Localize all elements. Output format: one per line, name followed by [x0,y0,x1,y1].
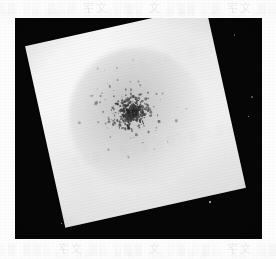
bleed-through-text-top-line-1: ░▒ 文字 ▒░ ▒▒░ 文 ░▒░ 文字 ▒░▒ ░░ ▒░▒ 文字░ ▒░ [0,0,276,15]
bleed-through-text-on-plate-lower: ░▒░ ▒░▒░ ▒░▒ ░▒░▒ [56,121,234,172]
tilted-white-plate: ▒░▒ ░▒░ ▒░ ░▒░ ▒░▒░ ▒░▒ ░▒░▒ [25,18,246,228]
bleed-through-text-left-margin: ░▒░ ▒░▒ ░▒ [0,100,9,182]
colony-speckle-cluster [42,23,230,211]
scanned-page: ░▒ 文字 ▒░ ▒▒░ 文 ░▒░ 文字 ▒░▒ ░░ ▒░▒ 文字░ ▒░ … [0,0,276,259]
photograph: ▒░▒ ░▒░ ▒░ ░▒░ ▒░▒░ ▒░▒ ░▒░▒ [15,18,262,239]
bleed-through-text-on-plate-upper: ▒░▒ ░▒░ ▒░ [39,41,217,91]
bleed-through-text-bottom-line-1: ▒░ 文字 ░▒░ ▒░ 文 ▒▒░ ░▒ 文字 ░▒▒ ▒░ ░▒░ [0,240,276,256]
plate-container: ▒░▒ ░▒░ ▒░ ░▒░ ▒░▒░ ▒░▒ ░▒░▒ [15,18,262,239]
bleed-through-text-bottom-line-2: ░▒░ ▒▒ ░░▒ ▒░ ░▒▒ ░▒ ▒░░ ▒▒ ░▒░ [0,250,276,259]
plate-surface-mottling [25,18,246,228]
cluster-core-haze [56,35,219,199]
photo-vignette [15,18,262,239]
